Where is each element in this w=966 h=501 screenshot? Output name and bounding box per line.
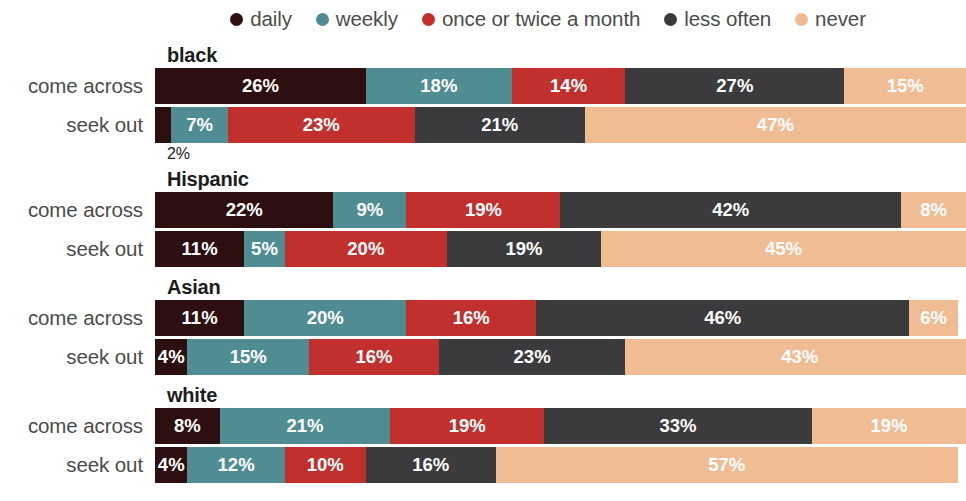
- stacked-bar: 26%18%14%27%15%: [155, 68, 966, 104]
- legend-item-once-or-twice-a-month: once or twice a month: [422, 9, 640, 30]
- bar-segment-less-often: 27%: [625, 68, 844, 104]
- bar-segment-weekly: 9%: [333, 192, 406, 228]
- bar-segment-once-twice: 23%: [228, 107, 415, 143]
- bar-segment-less-often: 33%: [544, 408, 812, 444]
- bar-segment-less-often: 21%: [415, 107, 585, 143]
- bar-segment-weekly: 12%: [187, 447, 284, 483]
- bar-segment-less-often: 19%: [447, 231, 601, 267]
- bar-segment-weekly: 15%: [187, 339, 309, 375]
- stacked-bar: 11%5%20%19%45%: [155, 231, 966, 267]
- bar-row: seek out4%12%10%16%57%: [0, 447, 966, 483]
- bar-segment-never: 57%: [496, 447, 958, 483]
- segment-value-label: 16%: [453, 309, 490, 328]
- bar-segment-weekly: 20%: [244, 300, 406, 336]
- row-label-come-across: come across: [0, 74, 155, 98]
- bar-row: come across22%9%19%42%8%: [0, 192, 966, 228]
- bar-segment-less-often: 16%: [366, 447, 496, 483]
- chart-group-white: whitecome across8%21%19%33%19%seek out4%…: [0, 378, 966, 483]
- bar-segment-once-twice: 10%: [285, 447, 366, 483]
- annotation-2-percent: 2%: [167, 146, 966, 162]
- segment-value-label: 19%: [465, 201, 502, 220]
- row-label-seek-out: seek out: [0, 453, 155, 477]
- stacked-bar: 8%21%19%33%19%: [155, 408, 966, 444]
- segment-value-label: 15%: [230, 348, 267, 367]
- segment-value-label: 12%: [218, 456, 255, 475]
- bar-segment-never: 15%: [844, 68, 966, 104]
- stacked-bar: 4%12%10%16%57%: [155, 447, 966, 483]
- segment-value-label: 42%: [712, 201, 749, 220]
- chart-legend: dailyweeklyonce or twice a monthless oft…: [0, 0, 966, 38]
- bar-segment-never: 43%: [625, 339, 966, 375]
- segment-value-label: 45%: [765, 240, 802, 259]
- bar-segment-once-twice: 20%: [285, 231, 447, 267]
- stacked-bar: 11%20%16%46%6%: [155, 300, 966, 336]
- bar-segment-once-twice: 19%: [406, 192, 560, 228]
- segment-value-label: 16%: [355, 348, 392, 367]
- stacked-bar: 22%9%19%42%8%: [155, 192, 966, 228]
- bar-segment-once-twice: 19%: [390, 408, 544, 444]
- bar-segment-daily: 8%: [155, 408, 220, 444]
- bar-segment-less-often: 42%: [560, 192, 901, 228]
- segment-value-label: 19%: [449, 417, 486, 436]
- bar-row: come across11%20%16%46%6%: [0, 300, 966, 336]
- bar-segment-daily: 26%: [155, 68, 366, 104]
- bar-segment-never: 47%: [585, 107, 966, 143]
- bar-segment-less-often: 46%: [536, 300, 909, 336]
- stacked-bar-chart: dailyweeklyonce or twice a monthless oft…: [0, 0, 966, 501]
- segment-value-label: 20%: [347, 240, 384, 259]
- bar-segment-never: 6%: [909, 300, 958, 336]
- segment-value-label: 4%: [158, 348, 185, 367]
- segment-value-label: 23%: [514, 348, 551, 367]
- legend-dot-less-often: [664, 13, 677, 26]
- bar-segment-daily: 11%: [155, 300, 244, 336]
- segment-value-label: 7%: [186, 116, 213, 135]
- bar-segment-daily: 22%: [155, 192, 333, 228]
- bar-segment-never: 19%: [812, 408, 966, 444]
- segment-value-label: 19%: [870, 417, 907, 436]
- legend-dot-never: [795, 13, 808, 26]
- segment-value-label: 8%: [920, 201, 947, 220]
- bar-row: seek out11%5%20%19%45%: [0, 231, 966, 267]
- legend-label: once or twice a month: [442, 9, 640, 30]
- group-title: white: [167, 378, 966, 408]
- row-label-seek-out: seek out: [0, 345, 155, 369]
- segment-value-label: 33%: [660, 417, 697, 436]
- legend-item-never: never: [795, 9, 866, 30]
- segment-value-label: 14%: [550, 77, 587, 96]
- legend-label: weekly: [336, 9, 398, 30]
- segment-value-label: 21%: [481, 116, 518, 135]
- stacked-bar: 4%15%16%23%43%: [155, 339, 966, 375]
- segment-value-label: 6%: [920, 309, 947, 328]
- bar-segment-daily: 11%: [155, 231, 244, 267]
- segment-value-label: 19%: [505, 240, 542, 259]
- group-title: Asian: [167, 270, 966, 300]
- segment-value-label: 18%: [420, 77, 457, 96]
- group-title: Hispanic: [167, 162, 966, 192]
- segment-value-label: 11%: [182, 240, 218, 259]
- bar-segment-daily: 2%: [155, 107, 171, 143]
- segment-value-label: 21%: [287, 417, 324, 436]
- bar-segment-daily: 4%: [155, 339, 187, 375]
- bar-row: seek out4%15%16%23%43%: [0, 339, 966, 375]
- legend-item-less-often: less often: [664, 9, 771, 30]
- segment-value-label: 26%: [242, 77, 279, 96]
- bar-segment-weekly: 7%: [171, 107, 228, 143]
- bar-segment-never: 8%: [901, 192, 966, 228]
- segment-value-label: 4%: [158, 456, 185, 475]
- segment-value-label: 5%: [251, 240, 278, 259]
- row-label-seek-out: seek out: [0, 113, 155, 137]
- segment-value-label: 46%: [704, 309, 741, 328]
- segment-value-label: 22%: [226, 201, 263, 220]
- bar-segment-once-twice: 16%: [309, 339, 439, 375]
- bar-segment-once-twice: 16%: [406, 300, 536, 336]
- segment-value-label: 8%: [174, 417, 201, 436]
- stacked-bar: 2%7%23%21%47%: [155, 107, 966, 143]
- row-label-come-across: come across: [0, 198, 155, 222]
- legend-dot-weekly: [316, 13, 329, 26]
- bar-segment-less-often: 23%: [439, 339, 626, 375]
- chart-plot-area: blackcome across26%18%14%27%15%seek out2…: [0, 38, 966, 486]
- segment-value-label: 15%: [887, 77, 924, 96]
- segment-value-label: 16%: [412, 456, 449, 475]
- segment-value-label: 47%: [757, 116, 794, 135]
- bar-segment-daily: 4%: [155, 447, 187, 483]
